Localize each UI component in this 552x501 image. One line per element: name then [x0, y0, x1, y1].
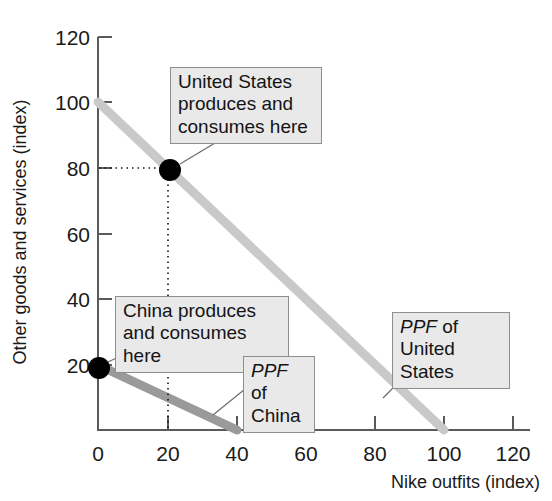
- x-tick-label-100: 100: [426, 442, 461, 465]
- callout-us-point: United States produces and consumes here: [170, 67, 322, 144]
- y-tick-label-40: 40: [67, 288, 90, 311]
- y-axis-ticks: [98, 37, 112, 365]
- ppf-comparative-advantage-chart: 120 100 80 60 40 20 0 20 40 60 80 100 12…: [0, 0, 552, 501]
- china-ppf-rest-text: of China: [251, 382, 301, 425]
- data-point-united-states: [159, 159, 181, 181]
- x-tick-label-60: 60: [294, 442, 317, 465]
- y-tick-label-60: 60: [67, 223, 90, 246]
- y-tick-label-100: 100: [55, 91, 90, 114]
- data-point-china: [88, 357, 110, 379]
- x-tick-label-20: 20: [156, 442, 179, 465]
- x-tick-label-40: 40: [225, 442, 248, 465]
- callout-us-ppf: PPF of United States: [392, 312, 510, 389]
- x-tick-label-0: 0: [92, 442, 104, 465]
- x-tick-label-80: 80: [363, 442, 386, 465]
- y-tick-label-120: 120: [55, 26, 90, 49]
- y-tick-label-20: 20: [67, 354, 90, 377]
- x-axis-title: Nike outfits (index): [391, 472, 540, 492]
- callout-china-ppf: PPF of China: [243, 356, 315, 433]
- y-tick-label-80: 80: [67, 157, 90, 180]
- china-ppf-italic-text: PPF: [251, 360, 288, 381]
- x-tick-label-120: 120: [495, 442, 530, 465]
- us-ppf-italic-text: PPF: [400, 316, 437, 337]
- y-axis-title: Other goods and services (index): [10, 99, 30, 364]
